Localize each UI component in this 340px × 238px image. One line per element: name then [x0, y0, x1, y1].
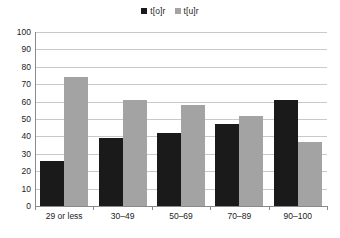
bar-series-container [35, 32, 327, 206]
y-axis-tick-label: 10 [3, 184, 31, 193]
bar-0 [40, 161, 64, 206]
bar-0 [274, 100, 298, 206]
y-axis-tick-label: 60 [3, 97, 31, 106]
bar-group [152, 32, 210, 206]
y-axis-line [35, 32, 36, 207]
y-axis-tick-label: 0 [3, 202, 31, 211]
legend-label-series-0: t[o]r [150, 7, 165, 16]
bar-1 [239, 116, 263, 206]
legend-swatch-icon-series-0 [141, 8, 147, 14]
bar-0 [215, 124, 239, 206]
x-axis-tick [269, 206, 270, 210]
chart-legend: t[o]r t[u]r [0, 3, 340, 19]
y-axis-tick-label: 80 [3, 63, 31, 72]
x-axis-tick [327, 206, 328, 210]
legend-item-t-u-r: t[u]r [175, 7, 199, 16]
x-axis-tick [35, 206, 36, 210]
y-axis-tick-label: 20 [3, 167, 31, 176]
y-axis-tick-label: 30 [3, 150, 31, 159]
bar-group [93, 32, 151, 206]
x-axis-category-label: 30–49 [111, 212, 135, 221]
x-axis-tick [210, 206, 211, 210]
x-axis-category-label: 90–100 [284, 212, 312, 221]
y-axis-tick-label: 70 [3, 80, 31, 89]
axis-baseline [35, 206, 327, 207]
bar-0 [157, 133, 181, 206]
bar-1 [298, 142, 322, 206]
y-axis-tick-label: 40 [3, 132, 31, 141]
bar-group [269, 32, 327, 206]
legend-swatch-icon-series-1 [175, 8, 181, 14]
bar-group [210, 32, 268, 206]
bar-1 [64, 77, 88, 206]
bar-1 [181, 105, 205, 206]
bar-0 [99, 138, 123, 206]
bar-chart: t[o]r t[u]r 1009080706050403020100 29 or… [0, 0, 340, 238]
legend-item-t-o-r: t[o]r [141, 7, 165, 16]
y-axis-tick-label: 100 [3, 28, 31, 37]
x-axis-tick [152, 206, 153, 210]
x-axis-category-label: 29 or less [46, 212, 83, 221]
y-axis-labels: 1009080706050403020100 [0, 32, 31, 206]
bar-group [35, 32, 93, 206]
x-axis-category-label: 70–89 [228, 212, 252, 221]
legend-label-series-1: t[u]r [184, 7, 199, 16]
bar-1 [123, 100, 147, 206]
x-axis-category-label: 50–69 [169, 212, 193, 221]
y-axis-tick-label: 90 [3, 45, 31, 54]
x-axis-tick [93, 206, 94, 210]
y-axis-tick-label: 50 [3, 115, 31, 124]
plot-area [35, 32, 327, 206]
